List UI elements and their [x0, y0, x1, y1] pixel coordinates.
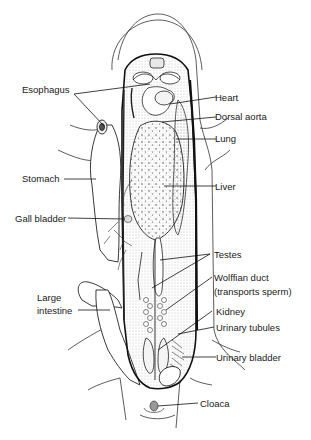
label-gall-bladder: Gall bladder	[15, 213, 66, 224]
label-large-intestine-line2: intestine	[37, 305, 72, 316]
label-cloaca: Cloaca	[200, 398, 230, 409]
label-dorsal-aorta: Dorsal aorta	[215, 111, 267, 122]
label-wolffian-duct: Wolffian duct	[214, 272, 269, 283]
label-wolffian-duct-note: (transports sperm)	[214, 286, 292, 297]
label-testes: Testes	[214, 249, 241, 260]
label-lung: Lung	[215, 133, 236, 144]
label-stomach: Stomach	[22, 173, 60, 184]
label-large-intestine-line1: Large	[37, 292, 61, 303]
label-kidney: Kidney	[216, 306, 245, 317]
cloaca	[144, 401, 164, 413]
label-liver: Liver	[215, 181, 236, 192]
label-urinary-tubules: Urinary tubules	[216, 322, 280, 333]
frog-anatomy-figure: Esophagus Heart Dorsal aorta Lung Stomac…	[0, 0, 311, 440]
label-heart: Heart	[215, 92, 238, 103]
label-urinary-bladder: Urinary bladder	[216, 352, 281, 363]
label-esophagus: Esophagus	[22, 84, 70, 95]
